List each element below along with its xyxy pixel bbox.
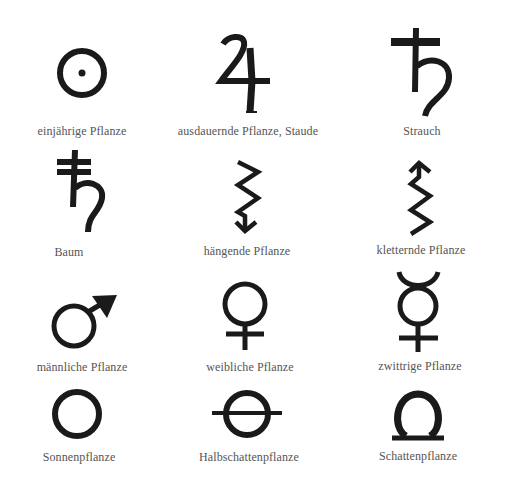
label-einjaehrige-pflanze: einjährige Pflanze — [38, 124, 127, 139]
circle-dot-icon — [60, 51, 104, 95]
zigzag-down-arrow-icon — [236, 162, 258, 231]
label-baum: Baum — [54, 245, 83, 260]
label-maennliche-pflanze: männliche Pflanze — [37, 360, 128, 375]
venus-icon — [225, 284, 265, 350]
label-weibliche-pflanze: weibliche Pflanze — [206, 360, 293, 375]
label-zwittrige-pflanze: zwittrige Pflanze — [378, 359, 461, 374]
mars-icon — [54, 295, 117, 346]
jupiter-icon — [221, 37, 270, 112]
circle-bar-icon — [212, 393, 282, 435]
label-ausdauernde-pflanze: ausdauernde Pflanze, Staude — [178, 124, 318, 139]
label-halbschattenpflanze: Halbschattenpflanze — [199, 450, 299, 465]
saturn-icon — [391, 28, 449, 116]
label-sonnenpflanze: Sonnenpflanze — [43, 450, 116, 465]
label-kletternde-pflanze: kletternde Pflanze — [377, 243, 466, 258]
label-schattenpflanze: Schattenpflanze — [379, 449, 457, 464]
label-strauch: Strauch — [403, 124, 440, 139]
mercury-icon — [399, 272, 438, 352]
saturn-double-bar-icon — [57, 150, 102, 232]
label-haengende-pflanze: hängende Pflanze — [204, 244, 291, 259]
zigzag-up-arrow-icon — [410, 163, 430, 234]
circle-icon — [55, 392, 99, 436]
omega-icon — [392, 394, 444, 438]
